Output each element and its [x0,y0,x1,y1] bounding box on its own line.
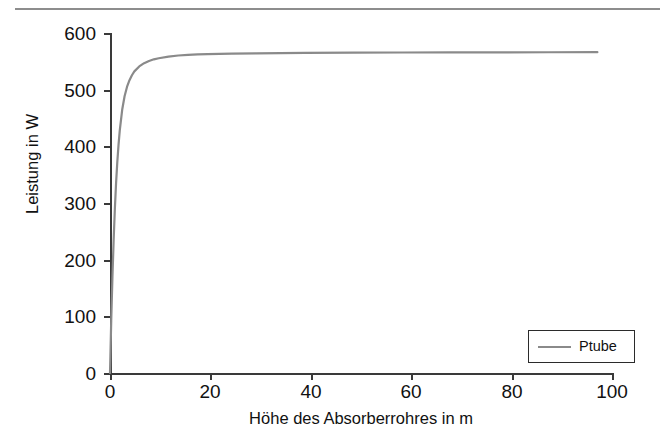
legend-line-swatch-ptube [538,346,571,348]
x-tick-80 [512,373,514,380]
y-ticklabel-600: 600 [16,24,96,43]
y-axis-label: Leistung in W [23,74,41,254]
line-series-ptube [110,52,597,373]
x-ticklabel-20: 20 [175,382,245,401]
x-axis-label: Höhe des Absorberrohres in m [110,409,612,427]
x-ticklabel-100: 100 [577,382,647,401]
x-tick-40 [311,373,313,380]
x-tick-60 [411,373,413,380]
y-ticklabel-0: 0 [16,364,96,383]
series-plot [110,33,612,373]
x-ticklabel-40: 40 [276,382,346,401]
chart-figure: 0 100 200 300 400 500 600 0 20 40 60 80 … [0,0,660,438]
y-ticklabel-100: 100 [16,307,96,326]
x-tick-20 [210,373,212,380]
x-tick-100 [612,373,614,380]
x-ticklabel-60: 60 [376,382,446,401]
legend-box: Ptube [528,330,635,363]
x-ticklabel-0: 0 [75,382,145,401]
legend-label-ptube: Ptube [579,338,617,355]
top-horizontal-rule [15,8,660,10]
x-axis-line [110,373,612,375]
x-ticklabel-80: 80 [477,382,547,401]
